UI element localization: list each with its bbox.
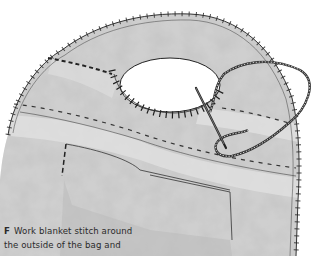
step-letter: F [4, 226, 10, 236]
bag-body [0, 0, 318, 256]
caption-line-2: the outside of the bag and [4, 238, 204, 252]
caption-line-1: FWork blanket stitch around [4, 224, 204, 238]
figure-caption: FWork blanket stitch around the outside … [4, 224, 204, 252]
bag-illustration [0, 0, 318, 256]
caption-text-1: Work blanket stitch around [14, 226, 132, 236]
